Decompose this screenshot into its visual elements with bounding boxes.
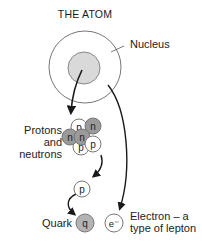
proton-label-right: p (90, 139, 96, 150)
nucleus-circle (68, 52, 100, 84)
electron-label-line1: Electron – a (130, 210, 196, 222)
electron-label: Electron – a type of lepton (130, 210, 196, 234)
arrow-nucleons-to-proton (94, 155, 102, 176)
neutron-label-top: n (90, 121, 96, 132)
neutron-label-mid: n (79, 132, 85, 143)
arrow-proton-to-quark (68, 194, 76, 214)
nucleus-label: Nucleus (130, 38, 170, 50)
neutron-label-left: n (67, 132, 73, 143)
quark-label: Quark (42, 217, 72, 229)
quark-symbol: q (82, 218, 88, 229)
protons-label-line3: neutrons (8, 148, 62, 160)
arrow-atom-to-electron (108, 85, 127, 208)
electron-label-line2: type of lepton (130, 222, 196, 234)
protons-label-line1: Protons (8, 124, 62, 136)
protons-label-line2: and (8, 136, 62, 148)
electron-symbol: e⁻ (109, 218, 119, 229)
nucleon-cluster: p p n n n p (62, 118, 101, 155)
proton-label: p (79, 184, 85, 195)
protons-neutrons-label: Protons and neutrons (8, 124, 62, 160)
